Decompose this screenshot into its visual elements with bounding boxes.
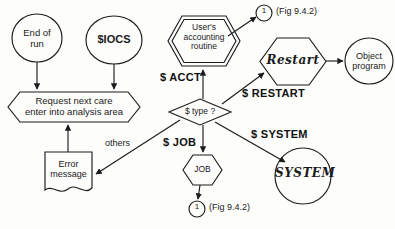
edge-label-others: others	[105, 138, 130, 148]
edge-job-to-connector	[198, 185, 200, 199]
edge-label-job: $ JOB	[163, 136, 196, 148]
edge-label-acct: $ ACCT	[160, 71, 201, 83]
connector-bottom-caption: (Fig 9.4.2)	[209, 202, 250, 212]
shape-object-program	[345, 38, 393, 84]
shape-connector-top	[256, 5, 272, 21]
shape-system	[275, 148, 331, 204]
shape-request-next-care	[8, 92, 140, 122]
shape-iocs	[86, 16, 142, 64]
flowchart-vector-layer	[0, 0, 395, 229]
shape-job	[183, 155, 222, 185]
edge-label-system: $ SYSTEM	[251, 128, 308, 140]
shape-restart	[260, 38, 326, 85]
shape-users-accounting-routine-outer	[168, 16, 240, 66]
edge-label-restart: $ RESTART	[242, 87, 305, 99]
shape-error-message	[45, 152, 92, 191]
flowchart-canvas: End of run $IOCS Request next care enter…	[0, 0, 395, 229]
shape-users-accounting-routine-inner	[172, 20, 236, 63]
connector-top-caption: (Fig 9.4.2)	[276, 6, 317, 16]
shape-end-of-run	[12, 14, 62, 62]
shape-connector-bottom	[189, 201, 205, 217]
